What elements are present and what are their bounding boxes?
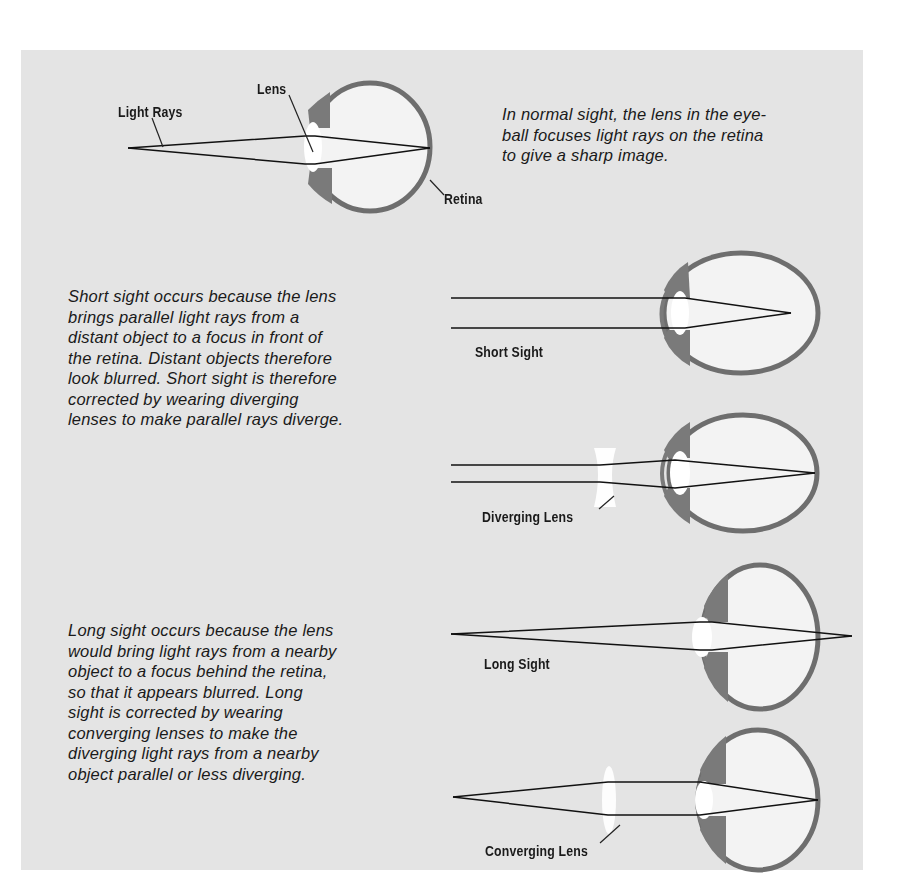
caption-line: sight is corrected by wearing (68, 702, 337, 723)
light-rays-label: Light Rays (118, 103, 183, 120)
caption-line: so that it appears blurred. Long (68, 682, 337, 703)
converging-lens-label: Converging Lens (485, 842, 588, 859)
short-sight-eye (662, 253, 819, 373)
caption-line: converging lenses to make the (68, 723, 337, 744)
caption-line: distant object to a focus in front of (68, 327, 343, 348)
caption-line: diverging light rays from a nearby (68, 743, 337, 764)
long-sight-eye (692, 565, 818, 709)
light-rays-leader-line (152, 118, 163, 147)
normal-eye (304, 83, 430, 211)
long-sight-label: Long Sight (484, 655, 550, 672)
lens-label: Lens (257, 80, 286, 97)
short-sight-label: Short Sight (475, 343, 543, 360)
retina-label: Retina (444, 190, 483, 207)
caption-line: Short sight occurs because the lens (68, 286, 343, 307)
caption-line: lenses to make parallel rays diverge. (68, 409, 343, 430)
caption-line: ball focuses light rays on the retina (502, 125, 766, 146)
caption-line: the retina. Distant objects therefore (68, 348, 343, 369)
converging-lens (602, 766, 616, 834)
caption-line: Long sight occurs because the lens (68, 620, 337, 641)
caption-line: In normal sight, the lens in the eye- (502, 104, 766, 125)
normal-sight-caption: In normal sight, the lens in the eye- ba… (502, 104, 766, 166)
retina-leader-line (430, 180, 444, 195)
diverging-lens (594, 448, 616, 507)
long-sight-caption: Long sight occurs because the lens would… (68, 620, 337, 784)
caption-line: to give a sharp image. (502, 145, 766, 166)
caption-line: object parallel or less diverging. (68, 764, 337, 785)
diverging-lens-label: Diverging Lens (482, 508, 573, 525)
caption-line: would bring light rays from a nearby (68, 641, 337, 662)
caption-line: brings parallel light rays from a (68, 307, 343, 328)
caption-line: look blurred. Short sight is therefore (68, 368, 343, 389)
caption-line: corrected by wearing diverging (68, 389, 343, 410)
caption-line: object to a focus behind the retina, (68, 661, 337, 682)
diverging-corrected-eye (662, 415, 817, 531)
converging-corrected-eye (695, 730, 818, 870)
short-sight-caption: Short sight occurs because the lens brin… (68, 286, 343, 430)
lens-leader-line (289, 95, 313, 152)
